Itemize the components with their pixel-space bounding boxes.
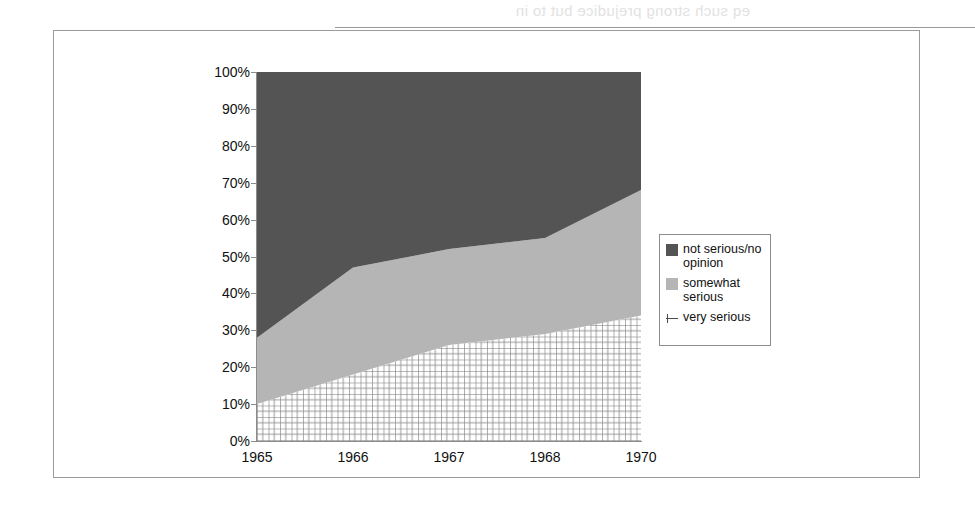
y-axis-tick-label: 10% [198,398,250,410]
x-axis-line [256,441,642,442]
y-axis-tick-mark [251,404,257,405]
y-axis-tick-label: 100% [198,66,250,78]
y-axis-tick-mark [251,146,257,147]
y-axis-tick-label: 0% [198,435,250,447]
light-square-swatch-icon [666,278,678,290]
legend-item[interactable]: not serious/no opinion [666,242,765,270]
y-axis-tick-mark [251,72,257,73]
y-axis-tick-mark [251,257,257,258]
grid-line-marker-icon [666,312,678,324]
y-axis-tick-label: 60% [198,214,250,226]
legend-item-label: somewhat serious [683,276,765,304]
chart-frame: 0%10%20%30%40%50%60%70%80%90%100% 196519… [53,30,920,478]
y-axis-tick-label: 20% [198,361,250,373]
y-axis-tick-mark [251,109,257,110]
y-axis-labels: 0%10%20%30%40%50%60%70%80%90%100% [194,31,250,479]
y-axis-tick-mark [251,441,257,442]
y-axis-tick-mark [251,183,257,184]
y-axis-tick-label: 90% [198,103,250,115]
legend-item[interactable]: very serious [666,310,765,324]
chart-area: 0%10%20%30%40%50%60%70%80%90%100% 196519… [54,31,921,479]
page-bleed-through-text: eq such strong prejudice but to in [330,2,750,28]
legend-item-label: not serious/no opinion [683,242,765,270]
y-axis-tick-mark [251,367,257,368]
legend-item-label: very serious [683,310,750,324]
legend-item[interactable]: somewhat serious [666,276,765,304]
x-axis-tick-label: 1965 [222,449,292,465]
plot-area [257,72,641,441]
y-axis-tick-label: 80% [198,140,250,152]
x-axis-tick-label: 1967 [414,449,484,465]
x-axis-tick-label: 1966 [318,449,388,465]
y-axis-tick-mark [251,220,257,221]
y-axis-tick-label: 30% [198,324,250,336]
y-axis-tick-mark [251,330,257,331]
y-axis-tick-label: 40% [198,287,250,299]
x-axis-tick-label: 1968 [510,449,580,465]
y-axis-tick-label: 50% [198,251,250,263]
stacked-area-plot [257,72,641,441]
dark-square-swatch-icon [666,244,678,256]
scan-artifact-line [335,27,975,28]
x-axis-tick-label: 1970 [606,449,676,465]
chart-legend: not serious/no opinionsomewhat seriousve… [659,234,771,346]
y-axis-tick-mark [251,293,257,294]
y-axis-tick-label: 70% [198,177,250,189]
